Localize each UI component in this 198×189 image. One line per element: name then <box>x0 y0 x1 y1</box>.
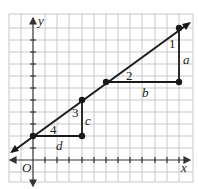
point-12-7 <box>176 25 182 31</box>
angle-1-label: 1 <box>169 36 176 51</box>
point-0-1 <box>30 133 36 139</box>
point-4-1 <box>79 133 85 139</box>
x-axis-label: x <box>180 160 187 175</box>
origin-label: O <box>22 160 32 175</box>
angle-3-label: 3 <box>72 105 79 120</box>
side-a-label: a <box>183 52 190 67</box>
side-c-label: c <box>85 113 91 128</box>
side-b-label: b <box>142 85 149 100</box>
point-4-3 <box>79 97 85 103</box>
point-6-4 <box>103 79 109 85</box>
side-d-label: d <box>56 138 63 153</box>
angle-4-label: 4 <box>50 122 57 137</box>
coordinate-diagram: y x O 1 a 2 b 3 c 4 d <box>0 0 198 189</box>
y-axis-label: y <box>36 13 44 28</box>
y-axis-down-arrow-icon <box>30 180 36 186</box>
angle-2-label: 2 <box>126 68 133 83</box>
point-12-4 <box>176 79 182 85</box>
